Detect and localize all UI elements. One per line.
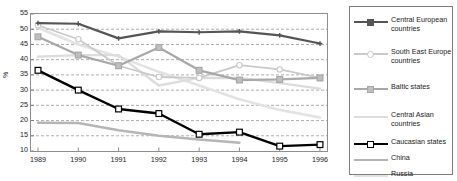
x-tick-label: 1989 bbox=[30, 155, 46, 164]
x-tick-label: 1994 bbox=[231, 155, 247, 164]
legend-item-central-asian-countries[interactable]: Central Asiancountries bbox=[350, 111, 454, 128]
legend-swatch-icon bbox=[354, 49, 388, 59]
legend-item-central-european-countries[interactable]: Central Europeancountries bbox=[350, 16, 454, 33]
y-tick-label: 25 bbox=[6, 101, 28, 108]
y-axis-tick-labels: 55504540353025201510 bbox=[4, 0, 28, 181]
legend-label-line2: countries bbox=[391, 119, 420, 128]
legend-item-caucasian-states[interactable]: Caucasian states bbox=[350, 138, 454, 149]
x-tick-label: 1995 bbox=[272, 155, 288, 164]
legend-swatch-icon bbox=[354, 17, 388, 27]
legend-item-baltic-states[interactable]: Baltic states bbox=[350, 83, 454, 94]
y-tick-label: 45 bbox=[6, 40, 28, 47]
y-tick-label: 30 bbox=[6, 86, 28, 93]
x-tick-label: 1991 bbox=[111, 155, 127, 164]
x-tick-label: 1996 bbox=[312, 155, 328, 164]
data-series-layer bbox=[31, 14, 327, 151]
legend-swatch-icon bbox=[354, 112, 388, 122]
legend-item-south-east-europe-countries[interactable]: South East Europecountries bbox=[350, 48, 454, 65]
x-axis-tick-labels: 19891990199119921993199419951996 bbox=[30, 155, 328, 169]
legend-label: China bbox=[391, 154, 410, 163]
y-tick-label: 40 bbox=[6, 55, 28, 62]
y-tick-label: 50 bbox=[6, 25, 28, 32]
legend-swatch-icon bbox=[354, 155, 388, 165]
x-tick-label: 1992 bbox=[151, 155, 167, 164]
y-tick-label: 55 bbox=[6, 9, 28, 16]
chart-screenshot: % 55504540353025201510 19891990199119921… bbox=[0, 0, 457, 181]
y-tick-label: 10 bbox=[6, 146, 28, 153]
legend-label: Baltic states bbox=[391, 83, 430, 92]
line-chart: % 55504540353025201510 19891990199119921… bbox=[0, 0, 345, 181]
x-tick-label: 1993 bbox=[191, 155, 207, 164]
legend-swatch-icon bbox=[354, 84, 388, 94]
legend-label: Central Europeancountries bbox=[391, 16, 447, 33]
legend-swatch-icon bbox=[354, 139, 388, 149]
legend-label: Russia bbox=[391, 170, 413, 179]
plot-area bbox=[30, 13, 328, 152]
y-tick-label: 15 bbox=[6, 131, 28, 138]
x-tick-label: 1990 bbox=[70, 155, 86, 164]
legend-label-line2: countries bbox=[391, 24, 420, 33]
legend-label: Central Asiancountries bbox=[391, 111, 434, 128]
legend-swatch-icon bbox=[354, 171, 388, 181]
legend-label: Caucasian states bbox=[391, 138, 446, 147]
legend-item-russia[interactable]: Russia bbox=[350, 170, 454, 181]
legend-label-line2: countries bbox=[391, 56, 420, 65]
legend-label: South East Europecountries bbox=[391, 48, 451, 65]
chart-legend: Central EuropeancountriesSouth East Euro… bbox=[349, 6, 453, 175]
y-tick-label: 20 bbox=[6, 116, 28, 123]
legend-item-china[interactable]: China bbox=[350, 154, 454, 165]
y-tick-label: 35 bbox=[6, 70, 28, 77]
